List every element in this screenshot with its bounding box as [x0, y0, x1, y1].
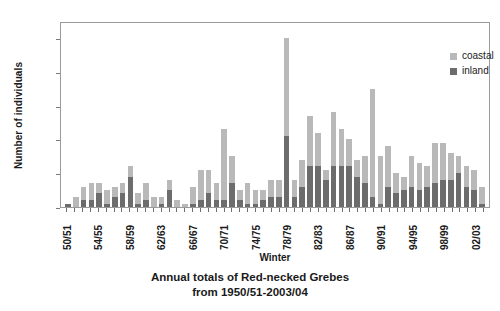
stacked-bar [253, 190, 259, 207]
stacked-bar [339, 129, 345, 207]
bar-segment-inland [307, 166, 313, 207]
bar-segment-coastal [221, 129, 227, 200]
bar-segment-coastal [331, 112, 337, 166]
bar-segment-coastal [307, 116, 313, 167]
bar-slot [127, 23, 135, 207]
x-tick-mark [436, 208, 437, 212]
plot-area: coastal inland [60, 22, 490, 208]
bar-segment-inland [229, 183, 235, 207]
bar-slot [353, 23, 361, 207]
bar-segment-coastal [284, 38, 290, 136]
stacked-bar [331, 112, 337, 207]
x-label-slot [267, 214, 275, 254]
stacked-bar [112, 187, 118, 207]
bar-segment-coastal [182, 204, 188, 207]
x-tick-mark [239, 208, 240, 212]
stacked-bar [221, 129, 227, 207]
caption-line-1: Annual totals of Red-necked Grebes [0, 270, 500, 285]
x-tick-mark [137, 208, 138, 212]
stacked-bar [206, 170, 212, 207]
bar-slot [283, 23, 291, 207]
bar-segment-inland [385, 187, 391, 207]
stacked-bar [307, 116, 313, 207]
x-label-slot [448, 214, 456, 254]
bar-segment-coastal [448, 153, 454, 180]
bar-segment-coastal [206, 170, 212, 194]
bar-slot [80, 23, 88, 207]
bar-slot [244, 23, 252, 207]
legend: coastal inland [450, 51, 494, 81]
bar-segment-coastal [198, 170, 204, 200]
legend-item-inland: inland [450, 66, 494, 76]
bar-slot [252, 23, 260, 207]
x-tick-mark [428, 208, 429, 212]
bar-segment-inland [268, 197, 274, 207]
x-tick-mark [389, 208, 390, 212]
stacked-bar [237, 190, 243, 207]
bar-segment-inland [143, 200, 149, 207]
bar-segment-coastal [401, 177, 407, 191]
x-tick-mark [208, 208, 209, 212]
stacked-bar [378, 156, 384, 207]
bar-slot [212, 23, 220, 207]
x-tick-mark [263, 208, 264, 212]
stacked-bar [143, 183, 149, 207]
legend-swatch-inland [450, 68, 457, 75]
x-tick-mark [420, 208, 421, 212]
x-label-slot: 90/91 [377, 214, 385, 254]
bar-slot [87, 23, 95, 207]
stacked-bar [128, 166, 134, 207]
x-tick-mark [192, 208, 193, 212]
stacked-bar [440, 143, 446, 207]
stacked-bar [432, 143, 438, 207]
bar-segment-inland [299, 187, 305, 207]
x-label-slot [385, 214, 393, 254]
bar-slot [275, 23, 283, 207]
bar-segment-coastal [253, 190, 259, 204]
x-tick-mark [294, 208, 295, 212]
bar-segment-coastal [190, 187, 196, 204]
x-label-slot: 94/95 [409, 214, 417, 254]
stacked-bar [323, 170, 329, 207]
stacked-bar [393, 173, 399, 207]
bar-slot [400, 23, 408, 207]
x-tick-mark [129, 208, 130, 212]
bar-segment-inland [401, 190, 407, 207]
bar-segment-inland [245, 204, 251, 207]
x-tick-mark [121, 208, 122, 212]
x-label-slot [102, 214, 110, 254]
x-label-slot: 02/03 [472, 214, 480, 254]
stacked-bar [174, 200, 180, 207]
x-label-slot: 86/87 [346, 214, 354, 254]
x-label-slot [354, 214, 362, 254]
bar-segment-inland [479, 204, 485, 207]
x-tick-mark [161, 208, 162, 212]
stacked-bar [120, 183, 126, 207]
bar-slot [423, 23, 431, 207]
x-label-slot: 50/51 [63, 214, 71, 254]
bar-segment-coastal [120, 183, 126, 193]
legend-swatch-coastal [450, 53, 457, 60]
x-tick-mark [216, 208, 217, 212]
bar-slot [173, 23, 181, 207]
x-tick-mark [397, 208, 398, 212]
bar-slot [236, 23, 244, 207]
stacked-bar [81, 187, 87, 207]
stacked-bar [315, 133, 321, 207]
bar-slot [439, 23, 447, 207]
stacked-bar [245, 183, 251, 207]
bar-segment-inland [221, 200, 227, 207]
legend-label-coastal: coastal [462, 51, 494, 61]
x-label-slot: 74/75 [252, 214, 260, 254]
x-tick-mark [318, 208, 319, 212]
bar-slot [267, 23, 275, 207]
bar-segment-coastal [432, 143, 438, 184]
stacked-bar [401, 177, 407, 207]
x-label-slot [425, 214, 433, 254]
stacked-bar [190, 187, 196, 207]
bar-segment-inland [432, 183, 438, 207]
stacked-bar [354, 160, 360, 207]
bar-slot [306, 23, 314, 207]
x-tick-mark [349, 208, 350, 212]
bar-segment-inland [315, 166, 321, 207]
